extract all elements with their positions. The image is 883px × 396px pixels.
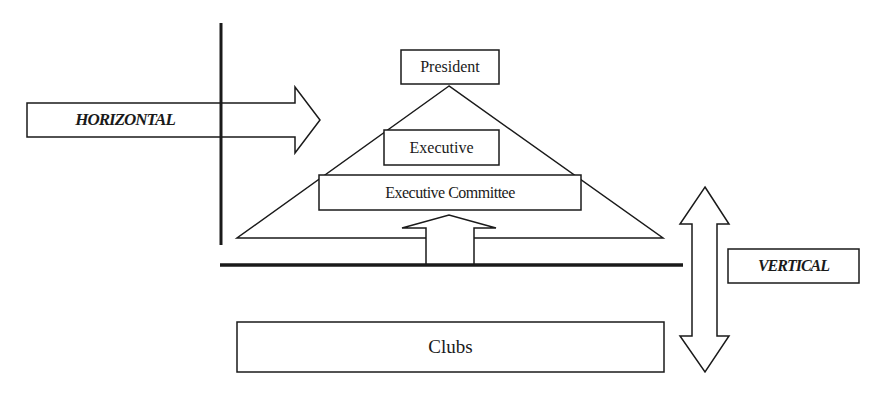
vertical-label: VERTICAL — [728, 254, 859, 278]
horizontal-label: HORIZONTAL — [40, 108, 210, 132]
executive-committee-label: Executive Committee — [319, 181, 581, 205]
clubs-label: Clubs — [237, 334, 664, 360]
executive-label: Executive — [384, 136, 499, 160]
president-label: President — [401, 55, 499, 79]
vertical-double-arrow-shape — [680, 187, 729, 372]
